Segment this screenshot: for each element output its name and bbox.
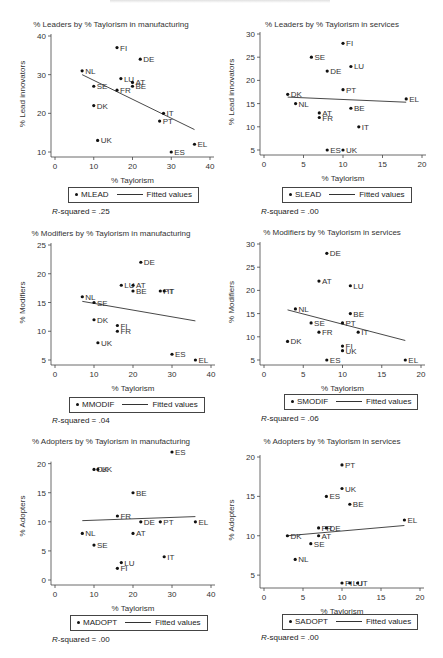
x-tick-label: 5 xyxy=(301,593,306,602)
x-tick-label: 15 xyxy=(378,160,387,169)
data-point-uk xyxy=(96,341,99,344)
point-label: DE xyxy=(330,249,341,258)
data-point-es xyxy=(325,358,328,361)
scatter-plot: 5101520253005101520% Taylorism% Lead inn… xyxy=(221,0,443,180)
point-label: EL xyxy=(409,95,419,104)
x-axis-label: % Taylorism xyxy=(111,176,154,185)
x-tick-label: 5 xyxy=(301,370,306,379)
y-tick-label: 5 xyxy=(251,356,256,365)
data-point-el xyxy=(194,358,197,361)
y-tick-label: 25 xyxy=(246,263,255,272)
marker-dot-icon xyxy=(76,403,79,406)
point-label: DE xyxy=(330,67,341,76)
data-point-it xyxy=(357,125,360,128)
point-label: UK xyxy=(101,136,113,145)
point-label: LU xyxy=(353,282,363,291)
data-point-fi xyxy=(341,344,344,347)
data-point-uk xyxy=(341,148,344,151)
y-tick-label: 5 xyxy=(251,146,256,155)
y-tick-label: 10 xyxy=(37,148,46,157)
point-label: IT xyxy=(167,553,174,562)
x-tick-label: 30 xyxy=(167,162,176,171)
y-axis-label: % Lead innovators xyxy=(227,59,236,125)
data-point-de xyxy=(139,58,142,61)
point-label: BE xyxy=(353,310,364,319)
x-tick-label: 0 xyxy=(53,590,58,599)
data-point-be xyxy=(348,503,351,506)
legend-fitted-label: Fitted values xyxy=(359,190,404,199)
x-tick-label: 15 xyxy=(377,593,386,602)
x-tick-label: 20 xyxy=(417,370,426,379)
point-label: ES xyxy=(329,492,340,501)
x-tick-label: 30 xyxy=(168,370,177,379)
marker-dot-icon xyxy=(77,621,80,624)
x-tick-label: 40 xyxy=(206,162,215,171)
point-label: PT xyxy=(345,461,355,470)
point-label: BE xyxy=(136,82,147,91)
data-point-el xyxy=(404,358,407,361)
chart-panel-madopt: % Adopters by % Taylorism in manufacturi… xyxy=(0,430,222,658)
y-tick-label: 10 xyxy=(246,123,255,132)
point-label: FR xyxy=(120,86,131,95)
y-tick-label: 20 xyxy=(246,76,255,85)
point-label: PT xyxy=(163,518,173,527)
chart-panel-smodif: % Modifiers by % Taylorism in services51… xyxy=(221,216,443,434)
data-point-nl xyxy=(81,295,84,298)
data-point-se xyxy=(309,542,312,545)
data-point-pt xyxy=(158,119,161,122)
data-point-fr xyxy=(317,526,320,529)
point-label: EL xyxy=(198,518,208,527)
point-label: NL xyxy=(298,555,309,564)
fitted-line-icon xyxy=(336,401,362,402)
x-tick-label: 40 xyxy=(207,370,216,379)
data-point-es xyxy=(325,495,328,498)
data-point-lu xyxy=(120,284,123,287)
data-point-lu xyxy=(349,284,352,287)
y-tick-label: 15 xyxy=(37,299,46,308)
data-point-de xyxy=(139,520,142,523)
y-tick-label: 15 xyxy=(37,489,46,498)
point-label: DE xyxy=(144,518,155,527)
chart-panel-slead: % Leaders by % Taylorism in services5101… xyxy=(221,0,443,218)
point-label: FR xyxy=(120,327,131,336)
x-axis-label: % Taylorism xyxy=(322,174,365,183)
point-label: FI xyxy=(120,564,127,573)
point-label: BE xyxy=(354,104,365,113)
data-point-fr xyxy=(317,331,320,334)
scatter-plot: 510152005101520% Taylorism% AdoptersPTUK… xyxy=(221,430,443,610)
x-tick-label: 20 xyxy=(129,370,138,379)
data-point-es xyxy=(170,450,173,453)
data-point-pt xyxy=(340,463,343,466)
point-label: DK xyxy=(97,316,109,325)
marker-dot-icon xyxy=(291,400,294,403)
chart-panel-mmodif: % Modifiers by % Taylorism in manufactur… xyxy=(0,216,222,434)
point-label: DK xyxy=(291,90,303,99)
data-point-es xyxy=(170,353,173,356)
x-tick-label: 10 xyxy=(339,160,348,169)
legend-fitted-label: Fitted values xyxy=(366,617,411,626)
data-point-se xyxy=(310,321,313,324)
r-squared-note: R-squared = .00 xyxy=(261,207,319,216)
point-label: UK xyxy=(101,465,113,474)
point-label: UK xyxy=(346,347,358,356)
y-tick-label: 25 xyxy=(37,241,46,250)
data-point-it xyxy=(356,581,359,584)
fitted-line xyxy=(287,526,404,536)
data-point-se xyxy=(310,56,313,59)
y-tick-label: 10 xyxy=(246,532,255,541)
point-label: DK xyxy=(291,337,303,346)
y-tick-label: 5 xyxy=(42,356,47,365)
legend-fitted-label: Fitted values xyxy=(147,190,192,199)
data-point-pt xyxy=(159,520,162,523)
scatter-plot: 510152025010203040% Taylorism% Modifiers… xyxy=(0,216,222,396)
x-axis-label: % Taylorism xyxy=(112,384,155,393)
legend-series-label: MLEAD xyxy=(81,190,109,199)
point-label: ES xyxy=(330,356,341,365)
data-point-se xyxy=(92,543,95,546)
point-label: BE xyxy=(353,500,364,509)
data-point-at xyxy=(317,534,320,537)
fitted-line-icon xyxy=(329,194,355,195)
data-point-lu xyxy=(348,581,351,584)
data-point-pt xyxy=(159,289,162,292)
y-tick-label: 5 xyxy=(42,547,47,556)
